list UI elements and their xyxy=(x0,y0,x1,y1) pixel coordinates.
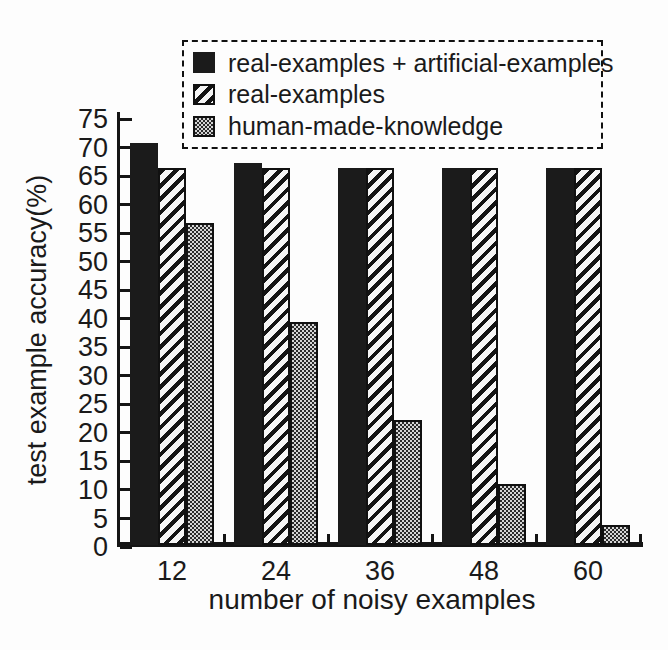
y-tick-label: 55 xyxy=(0,220,108,246)
x-category-label: 60 xyxy=(536,557,640,585)
y-tick-label: 15 xyxy=(0,448,108,474)
y-tick-label: 40 xyxy=(0,306,108,332)
bar-real-examples xyxy=(366,168,394,545)
bar-human-made-knowledge xyxy=(602,525,630,545)
x-tick xyxy=(639,534,642,542)
y-tick-label: 60 xyxy=(0,192,108,218)
x-tick xyxy=(327,534,330,542)
y-tick-label: 75 xyxy=(0,106,108,132)
y-tick-label: 30 xyxy=(0,363,108,389)
legend-label: human-made-knowledge xyxy=(228,113,503,139)
x-category-label: 36 xyxy=(328,557,432,585)
bar-real-examples xyxy=(262,168,290,545)
legend-item: real-examples + artificial-examples xyxy=(193,50,595,76)
legend-item: human-made-knowledge xyxy=(193,113,595,139)
bar-real-examples-artificial-examples xyxy=(234,163,262,545)
bar-real-examples-artificial-examples xyxy=(130,143,158,545)
bar-real-examples xyxy=(158,168,186,545)
x-tick xyxy=(535,534,538,542)
y-tick-label: 45 xyxy=(0,277,108,303)
x-category-label: 24 xyxy=(224,557,328,585)
legend-swatch-dots-icon xyxy=(193,116,215,137)
legend-swatch-solid-icon xyxy=(193,52,215,73)
bar-real-examples xyxy=(470,168,498,545)
y-tick-label: 10 xyxy=(0,477,108,503)
x-tick xyxy=(431,534,434,542)
bar-human-made-knowledge xyxy=(498,484,526,545)
bar-human-made-knowledge xyxy=(394,420,422,546)
y-tick-label: 0 xyxy=(0,534,108,560)
bar-chart-figure: test example accuracy(%) number of noisy… xyxy=(0,0,668,650)
y-tick xyxy=(120,118,132,121)
y-tick-label: 70 xyxy=(0,135,108,161)
legend-label: real-examples + artificial-examples xyxy=(228,50,614,76)
x-axis-title: number of noisy examples xyxy=(209,584,536,616)
y-tick-label: 20 xyxy=(0,420,108,446)
y-tick-label: 5 xyxy=(0,506,108,532)
bar-human-made-knowledge xyxy=(290,322,318,545)
y-tick-label: 50 xyxy=(0,249,108,275)
legend-item: real-examples xyxy=(193,81,595,107)
bar-real-examples-artificial-examples xyxy=(442,168,470,545)
bar-real-examples-artificial-examples xyxy=(546,168,574,545)
x-tick xyxy=(223,534,226,542)
y-tick-label: 65 xyxy=(0,163,108,189)
legend-swatch-hatch-icon xyxy=(193,84,215,105)
bar-real-examples xyxy=(574,168,602,545)
legend-box: real-examples + artificial-examplesreal-… xyxy=(182,40,603,149)
legend-label: real-examples xyxy=(228,81,385,107)
bar-human-made-knowledge xyxy=(186,223,214,545)
y-tick xyxy=(120,546,132,549)
x-category-label: 12 xyxy=(120,557,224,585)
y-tick-label: 35 xyxy=(0,334,108,360)
bar-real-examples-artificial-examples xyxy=(338,168,366,545)
y-tick-label: 25 xyxy=(0,391,108,417)
x-category-label: 48 xyxy=(432,557,536,585)
